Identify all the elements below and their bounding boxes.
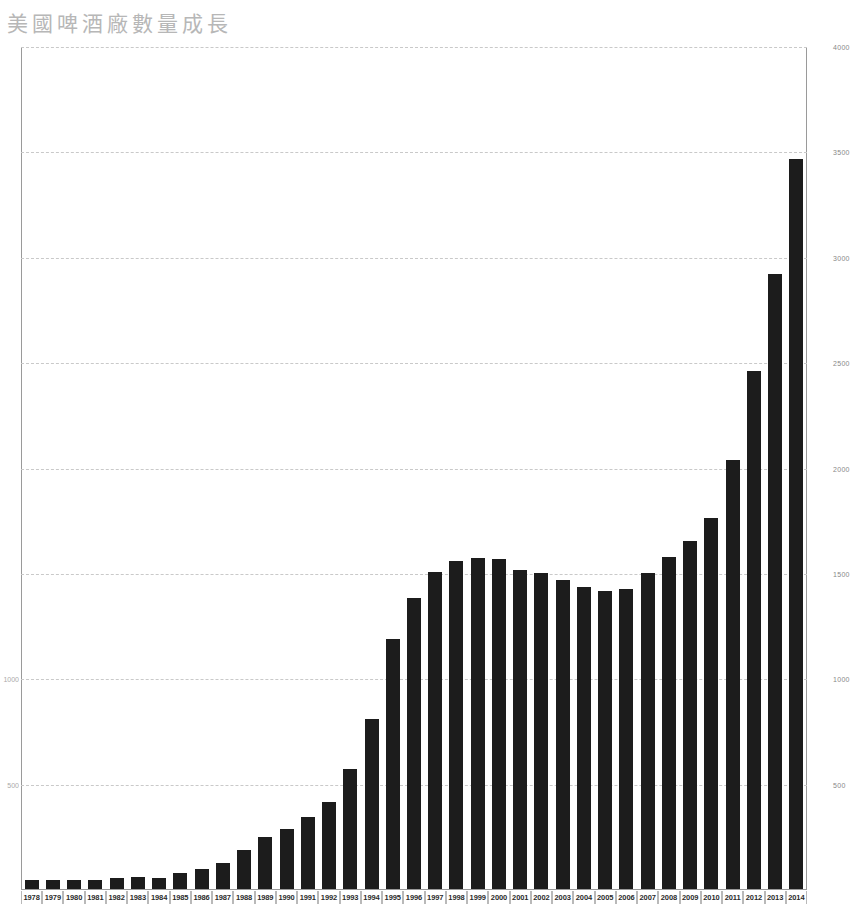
x-tick-label-group: 1978197919801981198219831984198519861987… <box>21 891 807 909</box>
bar[interactable] <box>195 869 209 889</box>
gridline <box>21 47 807 48</box>
x-tick-label: 2009 <box>680 891 701 904</box>
bar[interactable] <box>322 802 336 889</box>
bar[interactable] <box>747 371 761 889</box>
x-tick-label: 2014 <box>786 891 807 904</box>
x-tick-label: 1996 <box>403 891 424 904</box>
gridline <box>21 152 807 153</box>
x-tick-label: 2010 <box>701 891 722 904</box>
bar[interactable] <box>365 719 379 889</box>
bar[interactable] <box>768 274 782 889</box>
bar[interactable] <box>237 850 251 889</box>
bar[interactable] <box>598 591 612 889</box>
x-tick-label: 1980 <box>63 891 84 904</box>
bar[interactable] <box>471 558 485 890</box>
bar[interactable] <box>726 460 740 889</box>
x-tick-label: 2000 <box>488 891 509 904</box>
x-tick-label: 1998 <box>446 891 467 904</box>
bar[interactable] <box>131 877 145 889</box>
bar[interactable] <box>683 541 697 889</box>
x-tick-label: 1988 <box>233 891 254 904</box>
x-tick-label: 1983 <box>127 891 148 904</box>
bar[interactable] <box>386 639 400 889</box>
bar[interactable] <box>534 573 548 889</box>
bar[interactable] <box>513 570 527 889</box>
bar[interactable] <box>407 598 421 889</box>
x-tick-label: 1986 <box>191 891 212 904</box>
x-tick-label: 2003 <box>552 891 573 904</box>
x-tick-label: 1997 <box>425 891 446 904</box>
x-tick-label: 1987 <box>212 891 233 904</box>
bar[interactable] <box>577 587 591 889</box>
bar[interactable] <box>641 573 655 889</box>
y-tick-label-clipped: 500 <box>2 781 19 788</box>
x-tick-label: 2011 <box>722 891 743 904</box>
y-tick-label: 2500 <box>833 360 850 367</box>
bar[interactable] <box>428 572 442 889</box>
bar[interactable] <box>46 880 60 889</box>
bar[interactable] <box>67 880 81 889</box>
y-tick-label-clipped: 1000 <box>2 676 19 683</box>
y-tick-label: 500 <box>833 781 846 788</box>
x-tick-label: 2006 <box>616 891 637 904</box>
x-tick-label: 1989 <box>255 891 276 904</box>
x-tick-label: 1994 <box>361 891 382 904</box>
bar[interactable] <box>301 817 315 889</box>
y-tick-label: 1500 <box>833 570 850 577</box>
bar[interactable] <box>88 880 102 889</box>
bar[interactable] <box>789 159 803 889</box>
bar[interactable] <box>704 518 718 889</box>
x-tick-label: 2012 <box>743 891 764 904</box>
bar[interactable] <box>258 837 272 889</box>
x-tick-label: 1999 <box>467 891 488 904</box>
x-tick-label: 1982 <box>106 891 127 904</box>
x-tick-label: 1992 <box>318 891 339 904</box>
y-tick-label: 2000 <box>833 465 850 472</box>
x-tick-label: 1995 <box>382 891 403 904</box>
x-tick-label: 1981 <box>85 891 106 904</box>
y-tick-label: 3500 <box>833 149 850 156</box>
x-tick-label: 2004 <box>573 891 594 904</box>
bar[interactable] <box>343 769 357 889</box>
plot-area: 50050010001000150020002500300035004000 <box>21 47 807 890</box>
gridline <box>21 258 807 259</box>
x-tick-label: 1978 <box>21 891 42 904</box>
gridline <box>21 363 807 364</box>
bar[interactable] <box>662 557 676 889</box>
bar[interactable] <box>173 873 187 889</box>
y-tick-label: 4000 <box>833 44 850 51</box>
bar[interactable] <box>619 589 633 889</box>
x-tick-label: 1990 <box>276 891 297 904</box>
bar[interactable] <box>449 561 463 889</box>
bar[interactable] <box>152 878 166 889</box>
bar[interactable] <box>216 863 230 889</box>
bar[interactable] <box>25 880 39 889</box>
bar[interactable] <box>110 878 124 889</box>
x-tick-label: 1993 <box>340 891 361 904</box>
y-tick-label: 1000 <box>833 676 850 683</box>
gridline <box>21 469 807 470</box>
bar[interactable] <box>492 559 506 889</box>
x-tick-label: 2001 <box>510 891 531 904</box>
x-tick-label: 2002 <box>531 891 552 904</box>
x-axis-line <box>21 889 807 890</box>
x-tick-label: 1984 <box>148 891 169 904</box>
page-title: 美國啤酒廠數量成長 <box>7 13 232 34</box>
x-tick-label: 1979 <box>42 891 63 904</box>
y-tick-label: 3000 <box>833 254 850 261</box>
bar[interactable] <box>556 580 570 889</box>
x-tick-label: 1991 <box>297 891 318 904</box>
x-tick-label: 2013 <box>765 891 786 904</box>
bar[interactable] <box>280 829 294 889</box>
x-tick-label: 2005 <box>595 891 616 904</box>
x-tick-label: 2008 <box>658 891 679 904</box>
x-tick-label: 1985 <box>170 891 191 904</box>
x-tick-label: 2007 <box>637 891 658 904</box>
